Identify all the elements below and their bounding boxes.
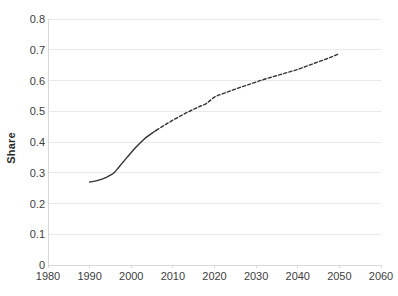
x-tick-label: 1990 [77,271,101,282]
x-tick-label: 2060 [369,271,393,282]
x-axis-tick-labels: 198019902000201020202030204020502060 [0,0,398,296]
x-tick-label: 2020 [202,271,226,282]
x-tick-label: 2040 [286,271,310,282]
x-tick-label: 2030 [244,271,268,282]
x-tick-label: 2050 [327,271,351,282]
x-tick-label: 2000 [119,271,143,282]
x-tick-label: 1980 [36,271,60,282]
chart-container: Share 00.10.20.30.40.50.60.70.8 19801990… [0,0,398,296]
x-tick-label: 2010 [161,271,185,282]
